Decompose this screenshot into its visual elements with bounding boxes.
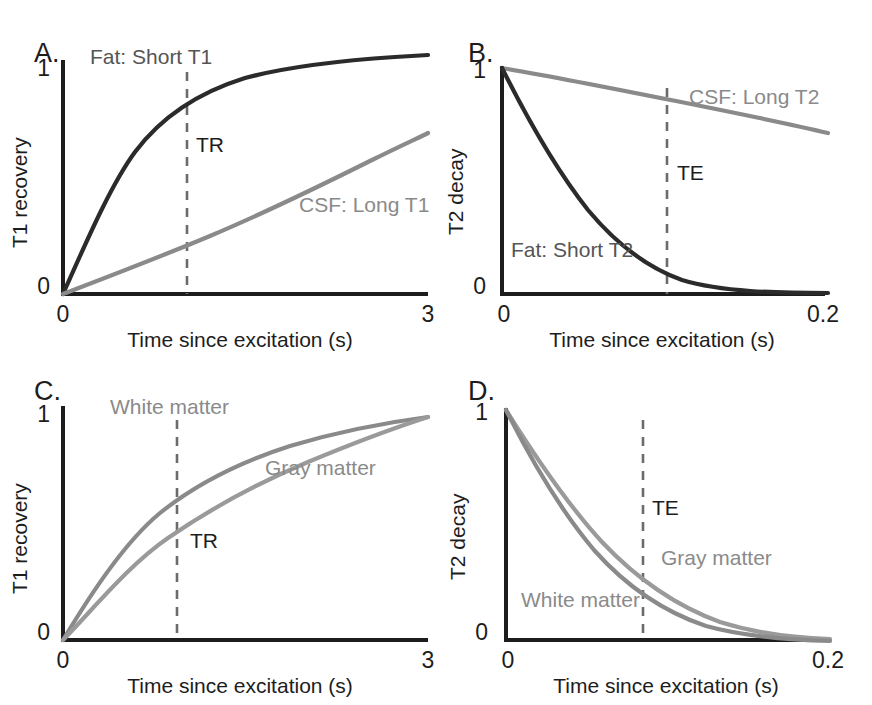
panel-d-label-gray: Gray matter (661, 546, 772, 569)
panel-d-te-label: TE (652, 496, 679, 519)
panel-a: A. 1 0 T1 recovery Fat: Short T1 TR CSF:… (0, 0, 436, 353)
panel-b-ytick-0: 0 (473, 273, 486, 299)
panel-a-ylabel: T1 recovery (8, 137, 31, 248)
panel-b-label-fat: Fat: Short T2 (511, 238, 633, 261)
panel-a-xlabel: Time since excitation (s) (127, 328, 353, 351)
panel-c-tr-label: TR (190, 529, 218, 552)
panel-b-plot: B. 1 0 T2 decay CSF: Long T2 TE Fat: Sho… (436, 0, 872, 353)
panel-d-ylabel: T2 decay (446, 493, 469, 580)
panel-b: B. 1 0 T2 decay CSF: Long T2 TE Fat: Sho… (436, 0, 872, 353)
panel-d-xtick-max: 0.2 (812, 647, 844, 673)
panel-b-ylabel: T2 decay (444, 148, 467, 235)
panel-c-label-gray: Gray matter (265, 456, 376, 479)
panel-c-label-white: White matter (110, 395, 229, 418)
panel-a-xtick-max: 3 (422, 301, 435, 327)
figure-mri-relaxation-curves: A. 1 0 T1 recovery Fat: Short T1 TR CSF:… (0, 0, 872, 705)
panel-d-ytick-1: 1 (475, 399, 488, 425)
panel-c-xtick-0: 0 (57, 647, 70, 673)
panel-d-plot: D. 1 0 T2 decay TE Gray matter White mat… (436, 352, 872, 705)
panel-a-curve-fat (63, 55, 428, 294)
panel-b-xtick-0: 0 (498, 301, 511, 327)
panel-b-xlabel: Time since excitation (s) (549, 328, 775, 351)
panel-b-label-csf: CSF: Long T2 (689, 85, 819, 108)
panel-a-tr-label: TR (196, 133, 224, 156)
panel-b-xtick-max: 0.2 (807, 301, 839, 327)
panel-a-label-fat: Fat: Short T1 (90, 45, 212, 68)
panel-c: C. 1 0 T1 recovery White matter Gray mat… (0, 352, 436, 705)
panel-b-te-label: TE (677, 161, 704, 184)
panel-a-ytick-0: 0 (37, 273, 50, 299)
panel-a-plot: A. 1 0 T1 recovery Fat: Short T1 TR CSF:… (0, 0, 436, 353)
panel-c-xtick-max: 3 (422, 647, 435, 673)
panel-d-xlabel: Time since excitation (s) (553, 674, 779, 697)
panel-d-xtick-0: 0 (502, 647, 515, 673)
panel-c-ylabel: T1 recovery (8, 483, 31, 594)
panel-a-label-csf: CSF: Long T1 (299, 193, 429, 216)
panel-c-ytick-1: 1 (37, 401, 50, 427)
panel-a-xtick-0: 0 (57, 301, 70, 327)
panel-c-curve-white (63, 417, 428, 640)
panel-a-ytick-1: 1 (37, 55, 50, 81)
panel-c-curve-gray (63, 417, 428, 640)
panel-c-xlabel: Time since excitation (s) (127, 674, 353, 697)
panel-d-label-white: White matter (521, 588, 640, 611)
panel-c-ytick-0: 0 (37, 619, 50, 645)
panel-b-ytick-1: 1 (473, 57, 486, 83)
panel-d-ytick-0: 0 (475, 619, 488, 645)
panel-c-plot: C. 1 0 T1 recovery White matter Gray mat… (0, 352, 436, 705)
panel-d: D. 1 0 T2 decay TE Gray matter White mat… (436, 352, 872, 705)
